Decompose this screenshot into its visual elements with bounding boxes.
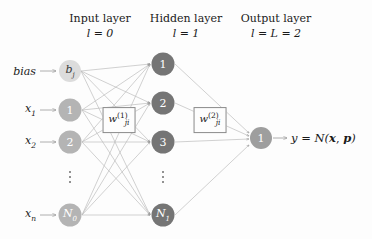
input-node-shapes bbox=[59, 99, 82, 227]
header-hidden-layer: Hidden layer l = 1 bbox=[150, 12, 222, 42]
weight-box-layer1-symbol: w bbox=[109, 113, 118, 124]
header-output-layer: Output layer l = L = 2 bbox=[241, 12, 312, 42]
header-input-layer-title: Input layer bbox=[69, 12, 131, 27]
weight-box-layer1: w(1)ji bbox=[103, 107, 136, 133]
header-input-layer: Input layer l = 0 bbox=[69, 12, 131, 42]
header-hidden-layer-formula: l = 1 bbox=[150, 27, 222, 42]
output-equation-equals: = bbox=[301, 131, 311, 145]
hidden-node-shapes bbox=[152, 53, 175, 227]
input-to-hidden-edges bbox=[81, 64, 150, 215]
input-arrows bbox=[40, 71, 56, 215]
bias-input-label-text: bias bbox=[13, 65, 36, 78]
header-output-layer-formula: l = L = 2 bbox=[241, 27, 312, 42]
hidden-to-output-edges bbox=[175, 64, 249, 215]
header-hidden-layer-title: Hidden layer bbox=[150, 12, 222, 27]
x1-input-label-sub: 1 bbox=[31, 109, 36, 118]
x1-input-label: x1 bbox=[25, 102, 36, 117]
xn-input-label: xn bbox=[25, 207, 36, 222]
xn-input-label-sub: n bbox=[31, 214, 36, 223]
hidden-ellipsis-icon bbox=[162, 171, 164, 183]
output-equation-close: ) bbox=[351, 131, 356, 145]
bias-input-label: bias bbox=[13, 65, 36, 78]
input-ellipsis-icon bbox=[69, 171, 71, 183]
output-equation-x: x bbox=[329, 131, 336, 145]
output-equation-comma: , bbox=[336, 131, 340, 145]
weight-box-layer1-sub: ji bbox=[125, 118, 130, 127]
header-output-layer-title: Output layer bbox=[241, 12, 312, 27]
neural-network-diagram: Input layer l = 0 Hidden layer l = 1 Out… bbox=[0, 0, 372, 239]
weight-box-layer2: w(2)ji bbox=[194, 107, 227, 133]
x2-input-label-sub: 2 bbox=[31, 141, 36, 150]
output-equation-fn: N( bbox=[314, 131, 329, 145]
x2-input-label: x2 bbox=[25, 134, 36, 149]
bias-node-shape bbox=[59, 60, 81, 82]
output-node-shape bbox=[250, 127, 272, 149]
header-input-layer-formula: l = 0 bbox=[69, 27, 131, 42]
weight-box-layer2-symbol: w bbox=[200, 113, 209, 124]
output-equation-y: y bbox=[291, 131, 298, 145]
weight-box-layer2-sub: ji bbox=[216, 118, 221, 127]
output-equation: y = N(x, p) bbox=[291, 131, 356, 145]
